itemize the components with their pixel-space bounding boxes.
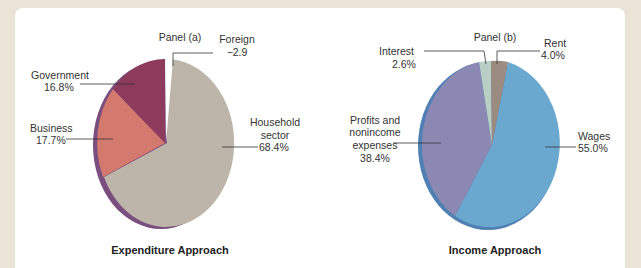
label-government-value: 16.8%	[44, 81, 74, 93]
label-household-name: Household	[245, 116, 305, 128]
panel-b-label: Panel (b)	[460, 31, 530, 43]
chart-title-expenditure: Expenditure Approach	[100, 244, 240, 256]
label-wages-name: Wages	[578, 130, 610, 142]
label-rent-value: 4.0%	[541, 49, 565, 61]
label-business-value: 17.7%	[36, 134, 66, 146]
label-foreign-value: −2.9	[212, 46, 262, 58]
label-interest-name: Interest	[379, 45, 414, 57]
label-foreign-name: Foreign	[212, 33, 262, 45]
label-business-name: Business	[30, 122, 73, 134]
label-government-name: Government	[25, 69, 95, 81]
label-profits-name-2: nonincome	[340, 126, 410, 138]
label-rent-name: Rent	[544, 37, 566, 49]
label-interest-value: 2.6%	[392, 58, 416, 70]
label-profits-name: Profits and	[340, 114, 410, 126]
label-household-name-2: sector	[245, 129, 305, 141]
label-profits-value: 38.4%	[340, 152, 410, 164]
label-profits-name-3: expenses	[340, 139, 410, 151]
chart-title-income: Income Approach	[430, 244, 560, 256]
pie-income	[418, 61, 560, 230]
pie-expenditure	[93, 59, 234, 229]
label-household-value: 68.4%	[259, 141, 289, 153]
label-wages-value: 55.0%	[578, 142, 608, 154]
panel-a-label: Panel (a)	[145, 31, 215, 43]
